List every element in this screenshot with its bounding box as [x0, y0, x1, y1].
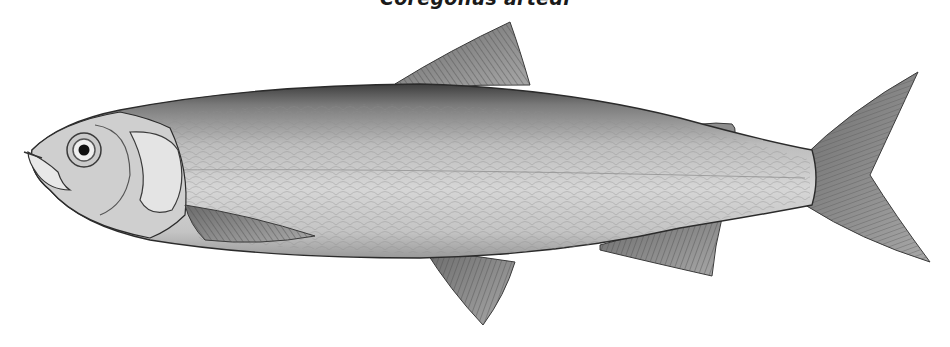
fish-illustration	[0, 0, 950, 347]
dorsal-fin	[395, 22, 530, 88]
fish-head	[24, 112, 186, 238]
caudal-fin	[800, 72, 930, 262]
pelvic-fin	[425, 250, 515, 325]
fish-eye	[67, 133, 101, 167]
